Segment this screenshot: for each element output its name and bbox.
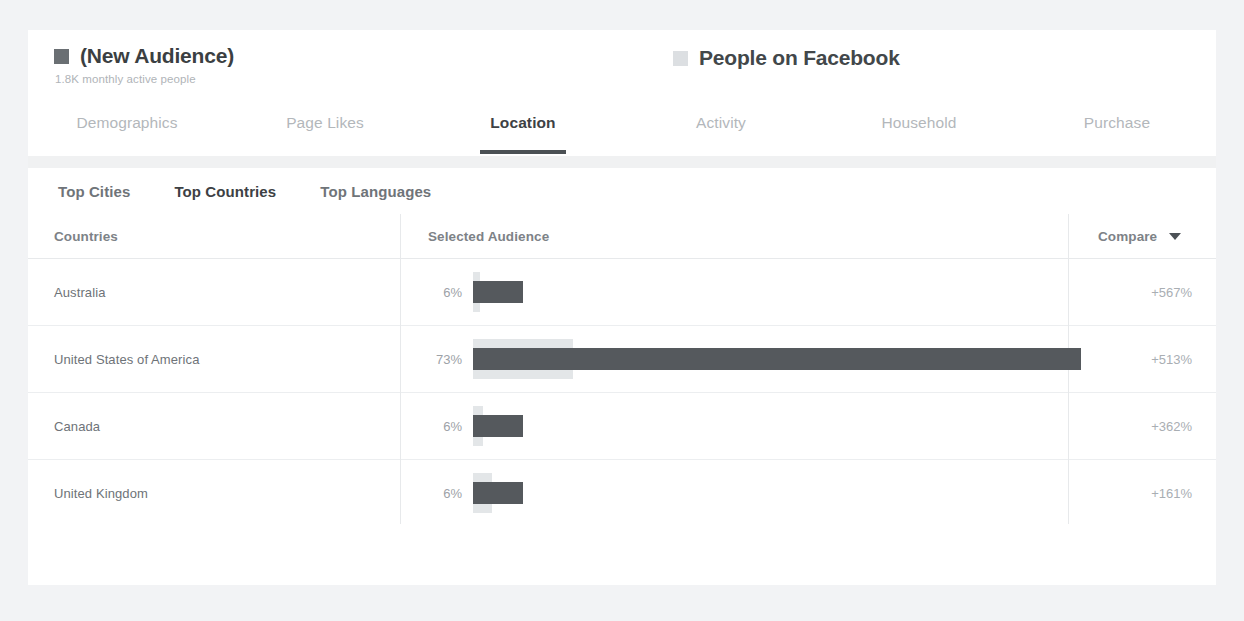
tab-label: Purchase	[1084, 114, 1150, 132]
tab-page-likes[interactable]: Page Likes	[226, 108, 424, 156]
cell-percent: 6%	[428, 486, 462, 501]
table-row[interactable]: United States of America 73% +513%	[28, 326, 1216, 393]
cell-percent: 73%	[428, 352, 462, 367]
tab-purchase[interactable]: Purchase	[1018, 108, 1216, 156]
table-header-row: Countries Selected Audience Compare	[28, 214, 1216, 259]
card-header: (New Audience) 1.8K monthly active peopl…	[28, 30, 1216, 108]
table-row[interactable]: Canada 6% +362%	[28, 393, 1216, 460]
location-subtabs: Top Cities Top Countries Top Languages	[28, 168, 1216, 214]
main-tabs: Demographics Page Likes Location Activit…	[28, 108, 1216, 156]
bar-selected	[473, 415, 523, 437]
tab-household[interactable]: Household	[820, 108, 1018, 156]
caret-down-icon[interactable]	[1169, 233, 1181, 240]
tab-underline	[480, 150, 566, 154]
cell-selected-audience: 6%	[400, 470, 1068, 516]
tab-demographics[interactable]: Demographics	[28, 108, 226, 156]
bar-area	[473, 269, 1068, 315]
bar-area	[473, 336, 1068, 382]
bar-selected	[473, 482, 523, 504]
cell-selected-audience: 6%	[400, 269, 1068, 315]
tab-location[interactable]: Location	[424, 108, 622, 156]
cell-country: United Kingdom	[28, 486, 400, 501]
cell-percent: 6%	[428, 285, 462, 300]
cell-compare: +567%	[1068, 285, 1216, 300]
compare-audience-swatch-icon	[673, 51, 688, 66]
subtab-top-languages[interactable]: Top Languages	[320, 183, 431, 200]
selected-audience-title: (New Audience)	[80, 44, 234, 68]
tab-label: Page Likes	[286, 114, 364, 132]
selected-audience-legend: (New Audience) 1.8K monthly active peopl…	[54, 44, 234, 85]
tabs-divider	[28, 156, 1216, 168]
top-countries-table: Countries Selected Audience Compare Aust…	[28, 214, 1216, 526]
subtab-top-cities[interactable]: Top Cities	[58, 183, 130, 200]
compare-audience-title: People on Facebook	[699, 46, 900, 70]
tab-label: Activity	[696, 114, 746, 132]
table-row[interactable]: Australia 6% +567%	[28, 259, 1216, 326]
audience-insights-card: (New Audience) 1.8K monthly active peopl…	[28, 30, 1216, 585]
bar-selected	[473, 348, 1081, 370]
tab-label: Demographics	[76, 114, 177, 132]
bar-area	[473, 470, 1068, 516]
column-divider-left	[400, 214, 401, 524]
cell-country: United States of America	[28, 352, 400, 367]
cell-compare: +161%	[1068, 486, 1216, 501]
column-header-countries[interactable]: Countries	[28, 229, 400, 244]
tab-label: Location	[490, 114, 555, 132]
cell-selected-audience: 73%	[400, 336, 1068, 382]
column-header-compare[interactable]: Compare	[1068, 229, 1216, 244]
column-header-selected-audience[interactable]: Selected Audience	[400, 229, 1068, 244]
cell-compare: +362%	[1068, 419, 1216, 434]
column-header-compare-label: Compare	[1098, 229, 1157, 244]
tab-activity[interactable]: Activity	[622, 108, 820, 156]
selected-audience-swatch-icon	[54, 49, 69, 64]
table-row[interactable]: United Kingdom 6% +161%	[28, 460, 1216, 526]
cell-percent: 6%	[428, 419, 462, 434]
bar-area	[473, 403, 1068, 449]
cell-selected-audience: 6%	[400, 403, 1068, 449]
cell-country: Canada	[28, 419, 400, 434]
tab-label: Household	[881, 114, 956, 132]
subtab-top-countries[interactable]: Top Countries	[174, 183, 276, 200]
compare-audience-legend: People on Facebook	[673, 46, 900, 70]
selected-audience-subtitle: 1.8K monthly active people	[55, 73, 234, 85]
cell-compare: +513%	[1068, 352, 1216, 367]
cell-country: Australia	[28, 285, 400, 300]
bar-selected	[473, 281, 523, 303]
